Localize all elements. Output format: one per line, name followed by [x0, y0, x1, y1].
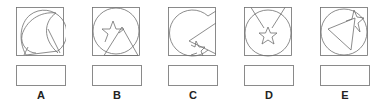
figure-e — [320, 7, 370, 57]
option-label-a: A — [16, 89, 66, 101]
option-a: A — [16, 0, 68, 107]
answer-box-c[interactable] — [168, 65, 218, 86]
figure-b — [92, 7, 142, 57]
answer-box-a[interactable] — [16, 65, 66, 86]
option-c: C — [168, 0, 220, 107]
figure-a — [16, 7, 66, 57]
figure-c — [168, 7, 218, 57]
crescent-figure-icon — [16, 7, 66, 57]
pacman-star-figure-icon — [168, 7, 218, 57]
option-d: D — [244, 0, 296, 107]
star-triangle-figure-icon — [92, 7, 142, 57]
option-label-d: D — [244, 89, 294, 101]
answer-box-e[interactable] — [320, 65, 370, 86]
answer-box-b[interactable] — [92, 65, 142, 86]
option-label-e: E — [320, 89, 370, 101]
triangle-star-figure-icon — [320, 7, 370, 57]
option-e: E — [320, 0, 372, 107]
v-star-figure-icon — [244, 7, 294, 57]
answer-box-d[interactable] — [244, 65, 294, 86]
figure-d — [244, 7, 294, 57]
option-label-c: C — [168, 89, 218, 101]
option-label-b: B — [92, 89, 142, 101]
option-b: B — [92, 0, 144, 107]
